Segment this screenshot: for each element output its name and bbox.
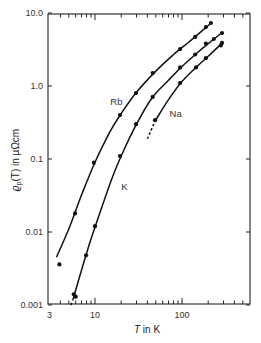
- plot-frame: [48, 14, 250, 304]
- data-point-rb: [92, 161, 96, 165]
- y-tick-label: 1.0: [30, 81, 43, 91]
- data-point-k: [93, 224, 97, 228]
- data-point-k: [134, 122, 138, 126]
- data-point-k: [220, 31, 224, 35]
- data-point-rb: [178, 47, 182, 51]
- curve-na-dashed: [147, 121, 155, 139]
- y-axis-label: ϱp(T) in μΩcm: [10, 129, 23, 191]
- data-point-na: [178, 81, 182, 85]
- x-tick-label: 100: [174, 310, 189, 320]
- data-point-k: [118, 154, 122, 158]
- y-tick-label: 0.001: [20, 300, 43, 310]
- series-points: [57, 21, 224, 299]
- series-label-na: Na: [170, 108, 183, 119]
- data-point-k: [151, 95, 155, 99]
- x-tick-label: 10: [90, 310, 100, 320]
- data-point-na: [204, 56, 208, 60]
- data-point-k: [74, 295, 78, 299]
- data-point-na: [194, 65, 198, 69]
- data-point-rb: [151, 71, 155, 75]
- curve-k: [73, 33, 222, 300]
- data-point-rb: [204, 25, 208, 29]
- x-tick-label: 3: [47, 310, 52, 320]
- data-point-rb: [73, 211, 77, 215]
- data-point-na: [153, 118, 157, 122]
- x-axis-label: T in K: [134, 324, 160, 335]
- data-point-rb: [193, 35, 197, 39]
- resistivity-chart: 3101000.0010.010.11.010.0 RbKNa T in K ϱ…: [0, 0, 261, 343]
- data-point-rb: [57, 262, 61, 266]
- data-point-rb: [209, 21, 213, 25]
- series-curves: [56, 23, 222, 306]
- data-point-k: [84, 253, 88, 257]
- data-point-k: [212, 37, 216, 41]
- data-point-k: [193, 52, 197, 56]
- data-point-rb: [118, 113, 122, 117]
- y-tick-label: 0.01: [25, 227, 43, 237]
- curve-rb: [56, 23, 211, 258]
- data-point-k: [178, 65, 182, 69]
- data-point-rb: [134, 91, 138, 95]
- series-label-rb: Rb: [110, 96, 122, 107]
- axis-tick-labels: 3101000.0010.010.11.010.0: [20, 8, 189, 320]
- y-tick-label: 0.1: [30, 154, 43, 164]
- data-point-na: [220, 41, 224, 45]
- series-labels: RbKNa: [110, 96, 182, 192]
- y-tick-label: 10.0: [25, 8, 43, 18]
- series-label-k: K: [121, 181, 128, 192]
- axis-ticks: [48, 13, 250, 305]
- curve-na: [155, 43, 222, 121]
- data-point-k: [204, 42, 208, 46]
